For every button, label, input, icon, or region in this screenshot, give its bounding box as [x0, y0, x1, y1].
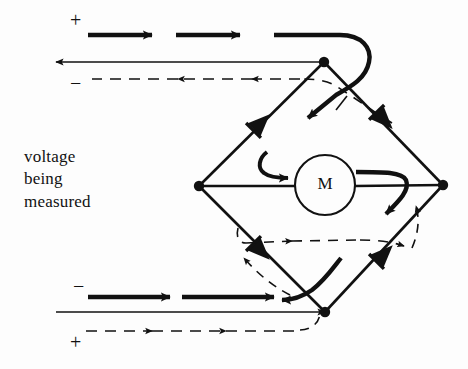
diode-upper-right	[369, 105, 400, 136]
dashed-meter-return	[246, 240, 404, 246]
meter-wire-right	[355, 185, 443, 186]
polarity-top-plus: +	[70, 10, 81, 30]
caption-voltage-being-measured: voltage being measured	[24, 146, 91, 213]
caption-line-1: voltage	[24, 146, 91, 168]
solid-arrow-out-of-meter	[356, 172, 407, 214]
meter-circle	[295, 155, 355, 215]
polarity-top-minus: −	[70, 73, 81, 93]
solid-flow-tick	[336, 96, 347, 110]
dashed-bottom-feeder	[300, 312, 320, 330]
caption-line-3: measured	[24, 191, 91, 213]
dashed-lower-left-climb	[244, 258, 290, 295]
diode-lower-left	[246, 236, 277, 267]
dashed-arrow-right-riser	[412, 206, 418, 248]
solid-arrow-into-meter	[260, 152, 288, 178]
node-top	[319, 57, 329, 67]
diode-lower-right	[369, 238, 400, 269]
diagram-page: voltage being measured + − − + M	[0, 0, 468, 369]
polarity-bottom-plus: +	[70, 332, 81, 352]
polarity-bottom-minus: −	[73, 276, 84, 296]
caption-line-2: being	[24, 168, 91, 190]
node-left	[194, 181, 204, 191]
node-right	[438, 180, 448, 190]
